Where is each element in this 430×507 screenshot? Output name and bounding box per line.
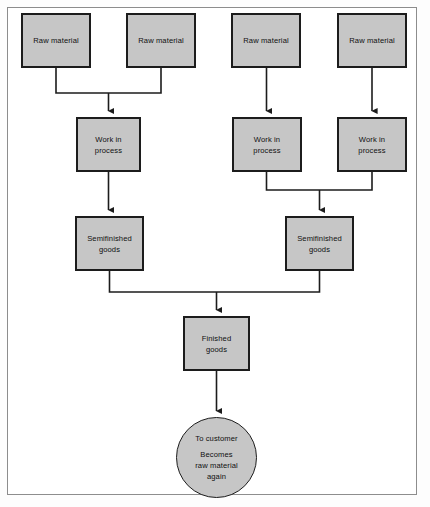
node-label-line-2: process (95, 146, 122, 155)
node-semifinished-goods-2: Semifinished goods (285, 216, 354, 271)
node-label: Work in process (234, 134, 300, 156)
node-finished-goods: Finished goods (183, 316, 250, 371)
node-label-line-1: Semifinished (297, 234, 342, 243)
node-label-line-1: Work in (359, 135, 385, 144)
node-label-line-1: Work in (95, 135, 121, 144)
node-label-line-2: Becomes (200, 450, 232, 459)
node-label: Work in process (339, 134, 405, 156)
node-label-line-2: goods (99, 245, 120, 254)
node-label-line-2: process (253, 146, 280, 155)
node-raw-material-3: Raw material (231, 13, 301, 68)
node-label: To customer Becomes raw material again (177, 433, 256, 482)
node-label: Semifinished goods (287, 233, 352, 255)
node-label: Raw material (23, 35, 89, 46)
node-label: Raw material (339, 35, 405, 46)
node-label-line-1: To customer (195, 434, 237, 443)
node-work-in-process-1: Work in process (76, 117, 141, 172)
node-label-line-1: Semifinished (87, 234, 132, 243)
flowchart-diagram: Raw material Raw material Raw material R… (0, 0, 430, 507)
node-work-in-process-3: Work in process (337, 117, 407, 172)
node-label: Work in process (78, 134, 139, 156)
node-label: Finished goods (185, 333, 248, 355)
node-label-line-1: Work in (254, 135, 280, 144)
node-label: Raw material (128, 35, 194, 46)
node-label-line-2: process (358, 146, 385, 155)
node-label: Raw material (233, 35, 299, 46)
node-label-line-3: raw material (195, 461, 238, 470)
node-to-customer: To customer Becomes raw material again (176, 417, 257, 498)
node-label: Semifinished goods (77, 233, 142, 255)
node-label-line-1: Finished (202, 334, 232, 343)
node-raw-material-4: Raw material (337, 13, 407, 68)
node-raw-material-2: Raw material (126, 13, 196, 68)
label-spacer (179, 444, 254, 449)
node-label-line-4: again (207, 472, 226, 481)
node-work-in-process-2: Work in process (232, 117, 302, 172)
node-raw-material-1: Raw material (21, 13, 91, 68)
node-label-line-2: goods (309, 245, 330, 254)
node-label-line-2: goods (206, 345, 227, 354)
node-semifinished-goods-1: Semifinished goods (75, 216, 144, 271)
